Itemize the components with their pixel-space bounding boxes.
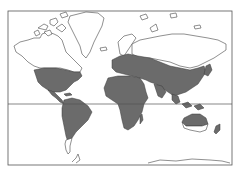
iceland-land [100,47,107,51]
world-distribution-map [0,0,242,172]
